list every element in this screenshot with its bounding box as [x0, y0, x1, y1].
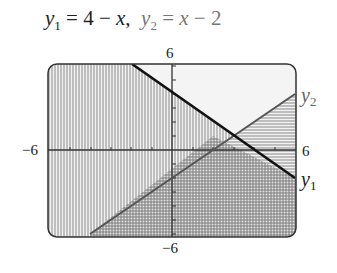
y-max-label: 6 — [166, 45, 174, 62]
y-min-label: −6 — [162, 240, 178, 257]
y1-curve-label: y1 — [301, 168, 316, 194]
plot-svg — [0, 0, 337, 273]
y2-label-sub: 2 — [310, 94, 317, 109]
y1-label-sub: 1 — [310, 178, 317, 193]
plot-area — [40, 64, 300, 240]
y1-label-symbol: y — [301, 168, 310, 190]
y2-label-symbol: y — [301, 84, 310, 106]
x-max-label: 6 — [302, 143, 310, 160]
y2-curve-label: y2 — [301, 84, 316, 110]
x-min-label: −6 — [22, 142, 38, 159]
